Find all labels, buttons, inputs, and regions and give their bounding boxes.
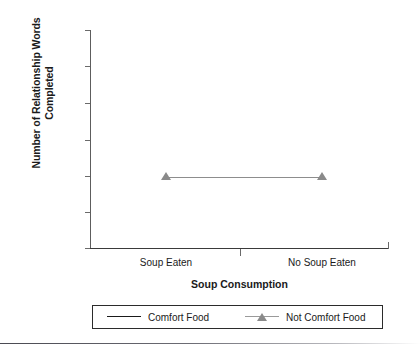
x-axis-end-tick [388, 242, 389, 249]
page-divider-rule [0, 343, 420, 344]
x-tick-mark-center [240, 249, 241, 256]
legend-label-comfort-food: Comfort Food [148, 312, 209, 323]
legend-item-comfort-food: Comfort Food [107, 306, 209, 328]
series-line-not-comfort-food [166, 177, 322, 178]
chart-figure: Number of Relationship Words Completed 3… [0, 0, 420, 350]
legend-line-triangle-icon [245, 312, 279, 322]
legend-line-icon [107, 312, 141, 322]
x-axis-title: Soup Consumption [90, 278, 389, 290]
data-point-marker-soup-eaten [161, 172, 171, 180]
y-axis-line [90, 30, 91, 249]
legend-label-not-comfort-food: Not Comfort Food [286, 312, 365, 323]
y-axis-title: Number of Relationship Words Completed [30, 0, 56, 193]
chart-legend: Comfort Food Not Comfort Food [92, 305, 383, 329]
x-category-label-1: No Soup Eaten [262, 257, 382, 269]
legend-item-not-comfort-food: Not Comfort Food [245, 306, 365, 328]
x-category-label-0: Soup Eaten [106, 257, 226, 269]
data-point-marker-no-soup-eaten [317, 172, 327, 180]
